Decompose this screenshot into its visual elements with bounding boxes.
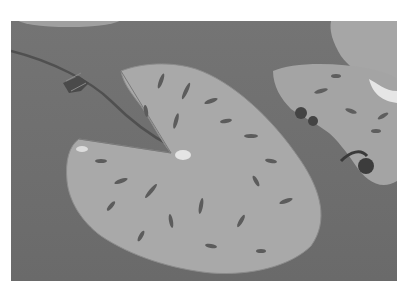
- lily-pad-photo: [11, 21, 397, 281]
